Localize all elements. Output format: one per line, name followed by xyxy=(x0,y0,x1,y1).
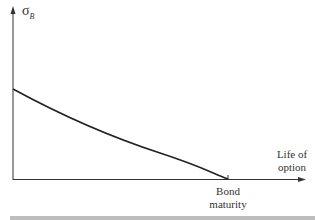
y-axis-arrow-icon xyxy=(11,6,16,14)
y-axis-label: σB xyxy=(22,4,34,23)
diagram-canvas xyxy=(0,0,315,220)
volatility-curve xyxy=(13,89,228,179)
x-axis-arrow-icon xyxy=(298,177,306,182)
bottom-divider xyxy=(10,216,315,220)
x-axis-label-line2: option xyxy=(269,161,315,174)
y-axis-label-subscript: B xyxy=(30,12,35,21)
x-axis-label-line1: Life of xyxy=(269,148,315,161)
bond-maturity-label: Bond maturity xyxy=(200,185,256,211)
bond-maturity-label-line2: maturity xyxy=(200,198,256,211)
bond-maturity-label-line1: Bond xyxy=(200,185,256,198)
x-axis-label: Life of option xyxy=(269,148,315,174)
y-axis-label-sigma: σ xyxy=(22,3,30,18)
